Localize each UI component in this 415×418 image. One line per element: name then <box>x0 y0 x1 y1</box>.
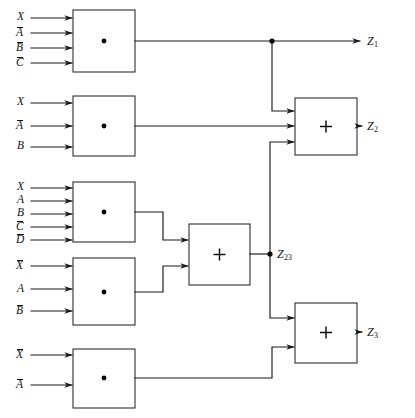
output-label-z3: Z3 <box>367 326 378 338</box>
input-label-gate2-b: B <box>17 140 24 152</box>
input-label-gate1-a-bar: A <box>16 26 23 39</box>
and-dot-symbol-4 <box>102 290 107 295</box>
wire-z23-output <box>250 142 294 318</box>
input-label-gate3-d-bar: D <box>16 233 24 246</box>
input-wires-gate-4 <box>31 266 72 311</box>
wire-and3-to-or-z23 <box>135 212 188 240</box>
or-gate-z2[interactable] <box>295 98 357 155</box>
junction-node-z1 <box>269 38 274 43</box>
input-wires-gate-1 <box>31 18 72 63</box>
input-wires-gate-2 <box>31 103 72 147</box>
input-label-gate3-c-bar: C <box>16 220 24 233</box>
and-dot-symbol-1 <box>102 39 107 44</box>
and-gate-3[interactable] <box>73 182 135 242</box>
and-dot-symbol-5 <box>102 376 107 381</box>
input-label-gate1-x: X <box>17 11 24 23</box>
and-gate-5[interactable] <box>73 349 135 408</box>
input-wires-gate-5 <box>31 355 72 385</box>
junction-node-z23 <box>267 251 272 256</box>
wire-and5-to-or-z3 <box>135 347 294 378</box>
input-label-gate3-a: A <box>17 194 24 206</box>
input-label-gate1-c-bar: C <box>16 56 24 69</box>
input-wires-gate-3 <box>31 188 72 240</box>
input-label-gate4-a: A <box>17 283 24 295</box>
input-label-gate3-b: B <box>17 207 24 219</box>
and-gate-2[interactable] <box>73 96 135 156</box>
and-dot-symbol-3 <box>102 210 107 215</box>
input-label-gate2-a-bar: A <box>16 119 23 132</box>
input-label-gate4-x-bar: X <box>16 259 23 272</box>
input-label-gate2-x: X <box>17 96 24 108</box>
output-label-z1: Z1 <box>367 35 378 47</box>
output-label-z23: Z23 <box>277 248 292 260</box>
input-label-gate5-x-bar: X <box>16 348 23 361</box>
and-dot-symbol-2 <box>102 124 107 129</box>
logic-diagram-canvas: X A B C X A B X A B C D X A B X A Z1 Z2 … <box>0 0 415 418</box>
or-gate-z3[interactable] <box>295 303 357 363</box>
input-label-gate5-a-bar: A <box>16 378 23 391</box>
wire-and4-to-or-z23 <box>135 266 188 292</box>
output-label-z2: Z2 <box>367 120 378 132</box>
input-label-gate4-b-bar: B <box>16 304 23 317</box>
or-gate-z23[interactable] <box>189 224 250 285</box>
and-gate-1[interactable] <box>73 10 135 72</box>
circuit-schematic <box>0 0 415 418</box>
input-label-gate3-x: X <box>17 181 24 193</box>
input-label-gate1-b-bar: B <box>16 41 23 54</box>
and-gate-4[interactable] <box>73 258 135 325</box>
